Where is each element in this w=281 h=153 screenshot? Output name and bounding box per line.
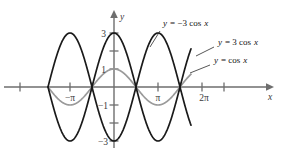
x-tick-label-pi: π (156, 93, 161, 103)
axes-group (4, 10, 274, 148)
annotation-neg-3-cos-x: y= −3 cosx (162, 18, 208, 28)
y-tick-label-3: 3 (101, 29, 106, 39)
eq-3cos-var: x (253, 37, 258, 47)
x-tick-label-2pi: 2π (199, 93, 209, 103)
y-axis-arrowhead (110, 10, 118, 18)
svg-text:y= −3 cosx: y= −3 cosx (162, 18, 208, 28)
eq-cos-rhs: = cos (221, 55, 241, 65)
leader-lines-group (150, 31, 214, 73)
x-tick-label-neg-pi: −π (65, 93, 75, 103)
eq-cos-lhs: y (213, 55, 218, 65)
x-axis-arrowhead (266, 83, 274, 91)
annotation-cos-x: y= cosx (213, 55, 247, 65)
eq-3cos-rhs: = 3 cos (225, 37, 252, 47)
y-axis-name: y (119, 12, 125, 22)
eq-neg3cos-rhs: = −3 cos (170, 18, 202, 28)
y-tick-label-neg-3: −3 (98, 137, 108, 147)
svg-text:y= 3 cosx: y= 3 cosx (217, 37, 258, 47)
cosine-amplitude-graph: −π π 2π 3 1 −1 −3 y x y= −3 cosx y= 3 co… (0, 0, 281, 153)
y-tick-label-neg-1: −1 (98, 101, 108, 111)
svg-text:y= cosx: y= cosx (213, 55, 247, 65)
eq-3cos-lhs: y (217, 37, 222, 47)
eq-neg3cos-var: x (203, 18, 208, 28)
leader-line-cos (190, 65, 210, 73)
annotation-3-cos-x: y= 3 cosx (217, 37, 258, 47)
leader-line-3cos (196, 47, 214, 56)
x-axis-name: x (267, 92, 273, 102)
y-tick-label-1: 1 (101, 65, 106, 75)
eq-neg3cos-lhs: y (162, 18, 167, 28)
eq-cos-var: x (242, 55, 247, 65)
